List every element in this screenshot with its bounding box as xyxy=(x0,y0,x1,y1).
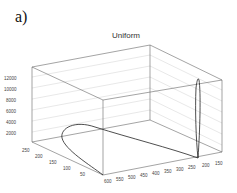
grid-lines xyxy=(32,55,222,145)
svg-text:150: 150 xyxy=(49,160,57,165)
svg-text:4000: 4000 xyxy=(6,120,17,125)
svg-text:100: 100 xyxy=(63,166,71,171)
svg-text:450: 450 xyxy=(140,173,148,178)
svg-text:300: 300 xyxy=(176,167,184,172)
data-curve xyxy=(62,79,200,175)
axes-box xyxy=(32,45,222,175)
x-axis-ticks: 600 550 500 450 400 350 300 250 200 150 xyxy=(104,161,223,184)
svg-text:50: 50 xyxy=(80,172,86,177)
svg-text:150: 150 xyxy=(215,161,223,166)
svg-text:350: 350 xyxy=(164,169,172,174)
svg-text:550: 550 xyxy=(116,177,124,182)
svg-text:250: 250 xyxy=(22,148,30,153)
z-axis-ticks: 2000 4000 6000 8000 10000 12000 xyxy=(4,76,17,136)
svg-text:400: 400 xyxy=(152,171,160,176)
svg-text:2000: 2000 xyxy=(6,131,17,136)
chart-3d-plot: 2000 4000 6000 8000 10000 12000 250 200 … xyxy=(0,0,237,193)
svg-text:200: 200 xyxy=(35,154,43,159)
svg-text:10000: 10000 xyxy=(4,87,17,92)
svg-text:250: 250 xyxy=(188,165,196,170)
svg-text:600: 600 xyxy=(104,179,112,184)
svg-text:12000: 12000 xyxy=(4,76,17,81)
svg-text:6000: 6000 xyxy=(6,109,17,114)
svg-text:200: 200 xyxy=(202,163,210,168)
svg-text:8000: 8000 xyxy=(6,98,17,103)
svg-text:500: 500 xyxy=(128,175,136,180)
